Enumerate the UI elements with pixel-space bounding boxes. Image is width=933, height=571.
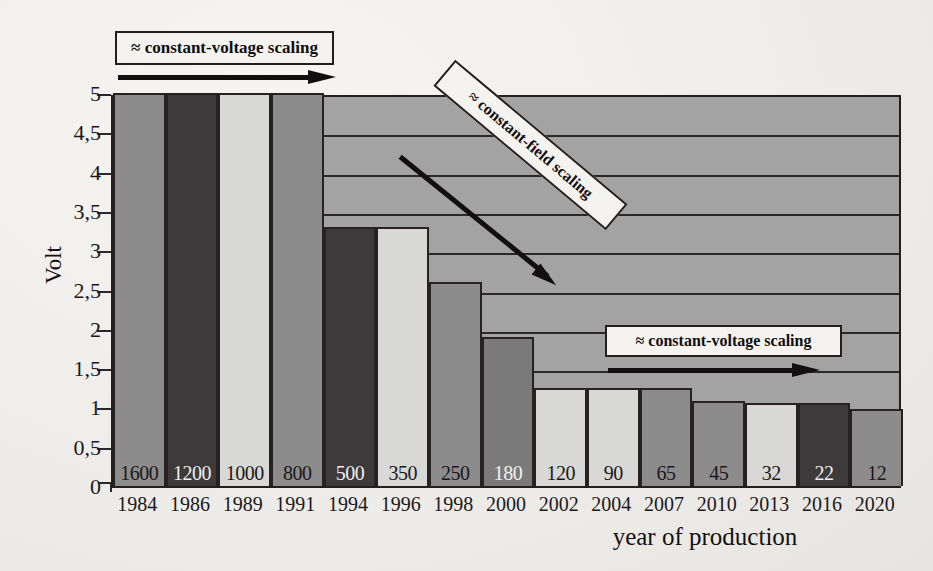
annotation-arrow-right-top	[118, 70, 336, 84]
x-tick-label: 1989	[216, 493, 269, 515]
bar: 45	[692, 401, 745, 486]
annotation-arrow-right-bottom	[608, 363, 820, 377]
bar-value-label: 1600	[115, 462, 164, 484]
bar: 22	[798, 403, 851, 486]
arrow-shaft	[399, 155, 550, 278]
annotation-constant-voltage-scaling-right: ≈ constant-voltage scaling	[605, 325, 842, 357]
arrow-head-icon	[532, 264, 561, 291]
bar: 1000	[218, 93, 271, 486]
bar: 1200	[166, 93, 219, 486]
y-axis-origin-corner	[98, 482, 112, 492]
bar-value-label: 350	[378, 462, 427, 484]
bar-value-label: 90	[589, 462, 638, 484]
y-tick-label: 2,5	[74, 280, 102, 302]
x-tick-label: 1984	[111, 493, 164, 515]
y-tick-label: 5	[90, 83, 101, 105]
x-tick-label: 2004	[585, 493, 638, 515]
x-tick-label: 2000	[480, 493, 533, 515]
bar: 180	[482, 337, 535, 486]
x-tick-label: 1994	[322, 493, 375, 515]
x-tick-label: 2013	[743, 493, 796, 515]
arrow-shaft	[608, 368, 798, 373]
bar-value-label: 800	[273, 462, 322, 484]
bar-value-label: 32	[747, 462, 796, 484]
bar-value-label: 500	[326, 462, 375, 484]
arrow-shaft	[118, 75, 314, 80]
y-tick-label: 4	[90, 162, 101, 184]
y-tick-label: 2	[90, 319, 101, 341]
x-tick-label: 1996	[374, 493, 427, 515]
bar: 12	[850, 409, 903, 486]
bar: 800	[271, 93, 324, 486]
bar: 500	[324, 227, 377, 486]
x-tick-label: 2020	[848, 493, 901, 515]
bar-value-label: 180	[484, 462, 533, 484]
x-tick-label: 1991	[269, 493, 322, 515]
y-tick-label: 0,5	[74, 437, 102, 459]
bar: 32	[745, 403, 798, 486]
y-tick-label: 3	[90, 240, 101, 262]
x-axis-title: year of production	[540, 523, 870, 551]
bar-value-label: 1000	[220, 462, 269, 484]
bar: 250	[429, 282, 482, 486]
bar-value-label: 65	[642, 462, 691, 484]
y-tick-label: 4,5	[74, 122, 102, 144]
bar-value-label: 120	[536, 462, 585, 484]
bar-value-label: 22	[800, 462, 849, 484]
figure-page: Volt 54,543,532,521,510,50 1600120010008…	[0, 0, 933, 571]
x-tick-label: 1986	[164, 493, 217, 515]
bar: 1600	[113, 93, 166, 486]
x-tick-label: 2002	[532, 493, 585, 515]
bar: 120	[534, 388, 587, 486]
bar: 65	[640, 388, 693, 486]
bar-value-label: 45	[694, 462, 743, 484]
annotation-constant-voltage-scaling-left: ≈ constant-voltage scaling	[115, 31, 334, 65]
x-tick-label: 2010	[690, 493, 743, 515]
bar-value-label: 1200	[168, 462, 217, 484]
arrow-head-icon	[792, 363, 820, 377]
y-axis: Volt 54,543,532,521,510,50	[0, 0, 111, 571]
y-tick-label: 1,5	[74, 358, 102, 380]
bar: 90	[587, 388, 640, 486]
x-tick-label: 1998	[427, 493, 480, 515]
bar-value-label: 12	[852, 462, 901, 484]
y-tick-label: 3,5	[74, 201, 102, 223]
y-axis-title: Volt	[41, 205, 67, 325]
bar-value-label: 250	[431, 462, 480, 484]
x-tick-label: 2016	[796, 493, 849, 515]
x-tick-label: 2007	[638, 493, 691, 515]
arrow-head-icon	[308, 70, 336, 84]
y-tick-label: 1	[90, 397, 101, 419]
